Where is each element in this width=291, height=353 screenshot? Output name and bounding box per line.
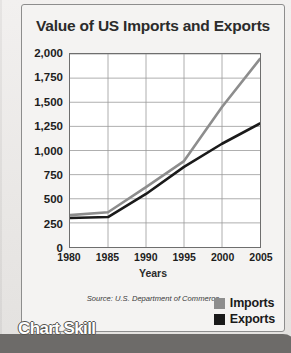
y-axis-tick-label: 500: [44, 193, 63, 205]
y-axis-tick-label: 1,500: [34, 96, 63, 108]
legend-label-exports: Exports: [230, 312, 275, 326]
y-axis-tick-label: 2,000: [34, 47, 63, 59]
x-axis-tick-label: 2000: [211, 251, 234, 263]
y-axis-tick-label: 1,000: [34, 145, 63, 157]
x-axis-title: Years: [22, 267, 284, 279]
x-axis-tick-label: 2005: [249, 251, 272, 263]
x-axis-tick-label: 1995: [173, 251, 196, 263]
chart-skill-banner: Chart Skill: [18, 319, 95, 339]
chart-title: Value of US Imports and Exports: [22, 17, 284, 35]
plot-canvas: [69, 53, 261, 248]
x-axis-tick-labels: 198019851990199520002005: [69, 251, 261, 267]
chart-legend: Imports Exports: [214, 295, 275, 327]
legend-item-exports: Exports: [214, 311, 275, 327]
legend-label-imports: Imports: [230, 296, 274, 310]
chart-svg: [70, 54, 260, 247]
legend-item-imports: Imports: [214, 295, 275, 311]
x-axis-tick-label: 1990: [134, 251, 157, 263]
x-axis-tick-label: 1985: [96, 251, 119, 263]
y-axis-tick-labels: 02505007501,0001,2501,5001,7502,000: [22, 53, 67, 248]
plot-area: [69, 53, 261, 248]
y-axis-tick-label: 250: [44, 218, 63, 230]
series-line-exports: [70, 123, 260, 218]
y-axis-tick-label: 1,250: [34, 120, 63, 132]
legend-swatch-exports-icon: [214, 314, 225, 325]
y-axis-tick-label: 1,750: [34, 71, 63, 83]
series-lines: [70, 59, 260, 218]
y-axis-tick-label: 750: [44, 169, 63, 181]
legend-swatch-imports-icon: [214, 298, 225, 309]
series-line-imports: [70, 59, 260, 215]
chart-card: Value of US Imports and Exports 02505007…: [21, 4, 285, 332]
x-axis-tick-label: 1980: [57, 251, 80, 263]
